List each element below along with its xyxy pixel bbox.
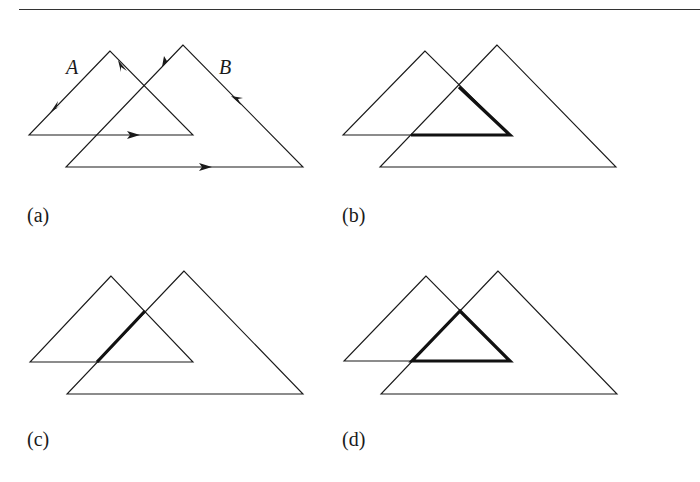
panel-label-d: (d) — [342, 428, 365, 451]
panel-b: (b) — [342, 45, 616, 227]
panel-a: A B (a) — [27, 45, 303, 227]
b-boundary-inside-a — [97, 311, 145, 362]
panel-d: (d) — [342, 271, 617, 451]
triangle-a — [343, 51, 510, 135]
panel-label-c: (c) — [27, 428, 49, 451]
triangle-a — [344, 276, 510, 361]
triangle-b — [67, 271, 303, 394]
panel-c: (c) — [27, 271, 303, 451]
panel-label-a: (a) — [27, 204, 49, 227]
triangle-b — [66, 45, 303, 167]
triangle-b — [381, 271, 617, 394]
triangle-a — [29, 51, 193, 135]
intersection-outline — [412, 311, 510, 361]
arrow-icon — [118, 60, 127, 72]
triangle-a-label: A — [64, 56, 79, 78]
triangle-b — [380, 45, 616, 167]
panel-label-b: (b) — [342, 204, 365, 227]
polygon-clipping-figure: A B (a) (b) (c) (d) — [0, 0, 700, 482]
a-boundary-inside-b — [411, 87, 510, 135]
triangle-a — [30, 276, 193, 362]
triangle-b-label: B — [219, 56, 231, 78]
